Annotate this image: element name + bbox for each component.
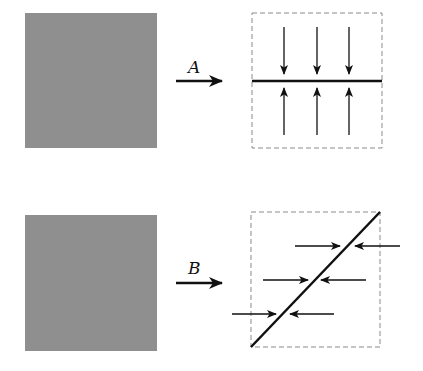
transform-arrow-b: B xyxy=(176,258,222,283)
diagram: A B xyxy=(0,0,423,371)
gray-square-a xyxy=(25,13,157,148)
label-a: A xyxy=(186,57,200,77)
transform-arrow-a: A xyxy=(176,57,222,81)
label-b: B xyxy=(187,258,201,278)
gray-square-b xyxy=(25,215,157,351)
